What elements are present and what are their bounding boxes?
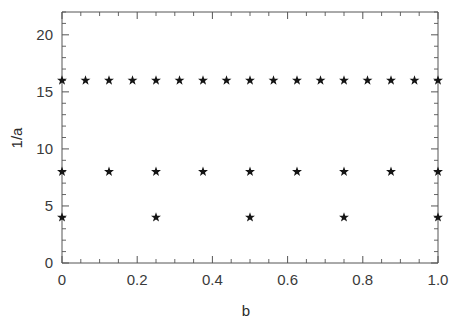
x-tick-label-0: 0 [58, 271, 66, 288]
x-axis-title: b [242, 302, 250, 319]
x-tick-label-3: 0.6 [277, 271, 298, 288]
y-tick-label-2: 10 [36, 140, 53, 157]
y-tick-label-4: 20 [36, 26, 53, 43]
scatter-plot-figure: 00.20.40.60.81.0 05101520 b 1/a [0, 0, 464, 329]
x-tick-label-1: 0.2 [127, 271, 148, 288]
x-tick-label-2: 0.4 [202, 271, 223, 288]
plot-background [0, 0, 464, 329]
plot-canvas: 00.20.40.60.81.0 05101520 b 1/a [0, 0, 464, 329]
y-tick-label-3: 15 [36, 83, 53, 100]
x-tick-label-5: 1.0 [428, 271, 449, 288]
x-tick-label-4: 0.8 [352, 271, 373, 288]
y-axis-title: 1/a [8, 127, 25, 149]
y-tick-label-1: 5 [45, 197, 53, 214]
y-tick-label-0: 0 [45, 254, 53, 271]
